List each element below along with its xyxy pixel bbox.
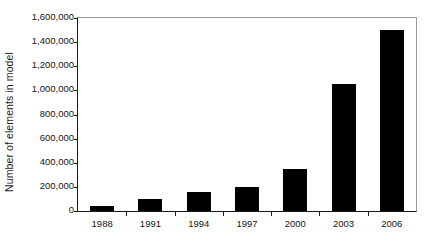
bar-2000 [283,169,307,211]
y-axis-tick-mark [74,66,78,67]
bar-chart: Number of elements in model 0200,000400,… [0,0,431,244]
x-axis-tick-label: 1988 [78,216,126,232]
x-axis-tick-label: 1997 [223,216,271,232]
x-axis-tick-label: 2006 [368,216,416,232]
y-axis-tick-label: 600,000 [16,132,74,144]
bar-1991 [138,199,162,211]
bar-slot [368,18,416,211]
y-axis-tick-mark [74,163,78,164]
y-axis-tick-mark [74,187,78,188]
x-axis-tick-label: 1991 [126,216,174,232]
bar-slot [271,18,319,211]
y-axis-tick-mark [74,90,78,91]
bar-slot [78,18,126,211]
bar-2006 [380,30,404,211]
y-axis-tick-label: 1,200,000 [16,59,74,71]
bars-layer [78,18,416,211]
y-axis-tick-label: 1,600,000 [16,11,74,23]
y-axis-tick-mark [74,18,78,19]
x-axis-tick-label: 1994 [175,216,223,232]
bar-1988 [90,206,114,211]
x-axis-tick-labels: 1988199119941997200020032006 [78,216,416,232]
y-axis-tick-label: 800,000 [16,108,74,120]
bar-1997 [235,187,259,211]
bar-slot [223,18,271,211]
bar-slot [126,18,174,211]
x-axis-tick-label: 2003 [319,216,367,232]
bar-1994 [187,192,211,211]
bar-slot [175,18,223,211]
y-axis-tick-label: 1,400,000 [16,35,74,47]
y-axis-tick-mark [74,42,78,43]
y-axis-tick-labels: 0200,000400,000600,000800,0001,000,0001,… [16,11,74,211]
y-axis-tick-label: 200,000 [16,180,74,192]
y-axis-tick-mark [74,115,78,116]
x-axis-tick-label: 2000 [271,216,319,232]
bar-slot [319,18,367,211]
y-axis-tick-label: 0 [16,204,74,216]
bar-2003 [332,84,356,211]
y-axis-tick-label: 400,000 [16,156,74,168]
y-axis-tick-label: 1,000,000 [16,83,74,95]
plot-area [77,17,417,212]
y-axis-tick-mark [74,139,78,140]
y-axis-tick-mark [74,211,78,212]
